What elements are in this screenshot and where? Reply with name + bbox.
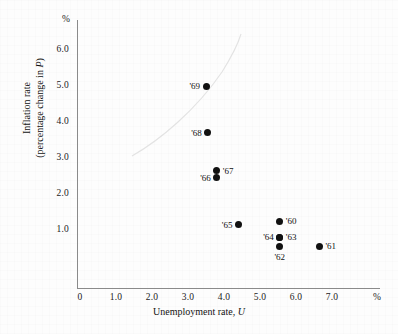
x-tick-label-2: 2.0 [132, 292, 172, 302]
x-axis-title-variable-u: U [238, 306, 245, 317]
data-point-66 [213, 174, 220, 181]
y-axis-title-line-1: Inflation rate [20, 28, 33, 188]
x-axis-line [77, 288, 380, 289]
phillips-curve-scatter-chart: % 6.0 5.0 4.0 3.0 2.0 1.0 0 1.0 2.0 3.0 … [0, 0, 398, 334]
data-point-label-60: '60 [286, 216, 297, 226]
x-tick-label-6: 6.0 [276, 292, 316, 302]
data-point-64 [276, 234, 283, 241]
x-tick-label-3: 3.0 [168, 292, 208, 302]
y-axis-title-line-2-prefix: (percentage change in [34, 68, 45, 158]
data-point-label-62: '62 [274, 252, 285, 262]
x-tick-label-0: 0 [60, 292, 100, 302]
y-tick-label-1: 1.0 [40, 224, 69, 234]
data-point-label-65: '65 [222, 220, 233, 230]
data-point-61 [316, 243, 323, 250]
data-point-67 [213, 167, 220, 174]
x-axis-title: Unemployment rate, U [0, 306, 398, 317]
y-axis-line [77, 20, 78, 289]
data-point-label-66: '66 [200, 173, 211, 183]
y-axis-title: Inflation rate (percentage change in P) [20, 28, 46, 188]
y-axis-unit-label: % [62, 14, 70, 24]
data-point-62 [276, 243, 283, 250]
y-tick-label-2: 2.0 [40, 188, 69, 198]
x-axis-unit-label: % [373, 292, 381, 302]
data-point-69 [203, 83, 210, 90]
data-point-label-64: '64 [263, 232, 274, 242]
x-axis-title-prefix: Unemployment rate, [153, 306, 238, 317]
data-point-68 [204, 129, 211, 136]
x-tick-label-5: 5.0 [240, 292, 280, 302]
data-point-label-68: '68 [191, 128, 202, 138]
data-point-label-67: '67 [223, 166, 234, 176]
y-axis-title-line-2: (percentage change in P) [33, 28, 46, 188]
data-point-65 [235, 221, 242, 228]
x-tick-label-4: 4.0 [204, 292, 244, 302]
x-tick-label-7: 7.0 [312, 292, 352, 302]
y-axis-title-line-2-suffix: ) [34, 58, 45, 61]
data-point-60 [276, 218, 283, 225]
data-point-label-69: '69 [189, 81, 200, 91]
data-point-label-61: '61 [325, 241, 336, 251]
y-axis-title-variable-p: P [34, 62, 45, 68]
data-point-label-63: '63 [286, 232, 297, 242]
x-tick-label-1: 1.0 [96, 292, 136, 302]
